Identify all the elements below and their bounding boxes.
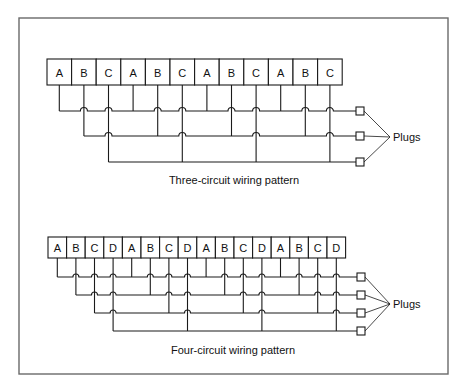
- box-label: B: [154, 67, 161, 79]
- box-label: A: [277, 67, 285, 79]
- plugs-label: Plugs: [393, 131, 421, 143]
- plugs: [356, 107, 390, 166]
- circuit-wire-b: [76, 292, 357, 295]
- box-label: A: [277, 242, 285, 254]
- box-label: A: [54, 242, 62, 254]
- wiring: [57, 258, 357, 331]
- circuit-wire-b: [84, 133, 356, 137]
- box-label: D: [258, 242, 266, 254]
- box-label: C: [252, 67, 260, 79]
- box-label: A: [129, 67, 137, 79]
- receptacle-boxes: ABCABCABCABC: [47, 59, 342, 85]
- box-label: A: [56, 67, 64, 79]
- four-circuit-caption: Four-circuit wiring pattern: [171, 344, 295, 356]
- plug-leader-line: [365, 304, 390, 331]
- box-label: D: [109, 242, 117, 254]
- box-label: B: [72, 242, 79, 254]
- box-label: C: [326, 67, 334, 79]
- wiring: [59, 85, 356, 162]
- box-label: B: [147, 242, 154, 254]
- box-label: C: [178, 67, 186, 79]
- plug-leader-line: [365, 277, 390, 304]
- box-label: C: [239, 242, 247, 254]
- circuit-wire-a: [57, 274, 357, 277]
- plugs-label: Plugs: [393, 298, 421, 310]
- box-label: A: [202, 242, 210, 254]
- plug-leader-line: [364, 136, 390, 137]
- box-label: C: [165, 242, 173, 254]
- box-label: B: [302, 67, 309, 79]
- box-label: C: [314, 242, 322, 254]
- three-circuit-caption: Three-circuit wiring pattern: [169, 174, 299, 186]
- box-label: A: [203, 67, 211, 79]
- box-label: D: [332, 242, 340, 254]
- box-label: C: [105, 67, 113, 79]
- box-label: A: [128, 242, 136, 254]
- box-label: D: [184, 242, 192, 254]
- plug-icon: [357, 327, 365, 335]
- box-label: B: [221, 242, 228, 254]
- plug-leader-line: [364, 137, 390, 162]
- plug-icon: [357, 273, 365, 281]
- plug-leader-line: [364, 111, 390, 137]
- box-label: B: [295, 242, 302, 254]
- circuit-wire-a: [59, 108, 356, 112]
- plugs: [357, 273, 390, 335]
- plug-icon: [357, 309, 365, 317]
- plug-icon: [356, 107, 364, 115]
- plug-icon: [356, 158, 364, 166]
- box-label: B: [228, 67, 235, 79]
- box-label: B: [80, 67, 87, 79]
- box-label: C: [91, 242, 99, 254]
- wiring-patterns-figure: ABCABCABCABC Plugs Three-circuit wiring …: [0, 0, 462, 386]
- plug-icon: [356, 132, 364, 140]
- receptacle-boxes: ABCDABCDABCDABCD: [48, 237, 346, 258]
- four-circuit-diagram: ABCDABCDABCDABCD Plugs Four-circuit wiri…: [48, 237, 421, 356]
- plug-icon: [357, 291, 365, 299]
- three-circuit-diagram: ABCABCABCABC Plugs Three-circuit wiring …: [47, 59, 421, 186]
